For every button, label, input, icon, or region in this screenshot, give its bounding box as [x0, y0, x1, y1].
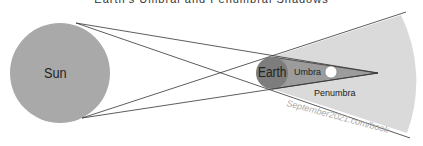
penumbra-label: Penumbra — [314, 88, 356, 98]
eclipse-diagram: Earth's Umbral and Penumbral Shadows Sun… — [0, 0, 423, 146]
moon-shape — [325, 66, 337, 78]
umbra-label: Umbra — [294, 67, 321, 77]
sun-label: Sun — [44, 64, 67, 81]
earth-label: Earth — [258, 64, 286, 80]
diagram-title: Earth's Umbral and Penumbral Shadows — [0, 0, 423, 5]
